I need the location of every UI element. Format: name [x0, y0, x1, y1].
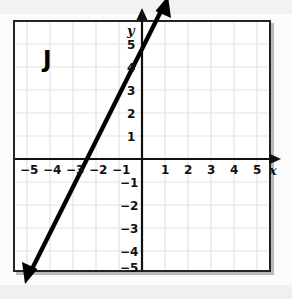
xtick-label--1: −1	[112, 164, 130, 176]
ytick-label--3: −3	[120, 223, 138, 235]
x-axis-label: x	[269, 164, 277, 177]
figure-label-J: J	[43, 48, 52, 71]
xtick-label-4: 4	[230, 164, 238, 176]
ytick-label--4: −4	[120, 246, 138, 258]
ytick-label-2: 2	[127, 108, 135, 120]
xtick-label-2: 2	[184, 164, 192, 176]
xtick-label--4: −4	[43, 164, 61, 176]
xtick-label--3: −3	[66, 164, 84, 176]
graph-figure: J −5 −4 −3 −2 −1 1 2 3 4 5 x 5 4 3 2 1 −…	[0, 0, 292, 299]
xtick-label-1: 1	[161, 164, 169, 176]
ytick-label-4: 4	[127, 62, 135, 74]
y-axis-label: y	[127, 24, 135, 37]
page-band-bottom	[0, 285, 292, 299]
ytick-label--1: −1	[120, 177, 138, 189]
xtick-label--2: −2	[89, 164, 107, 176]
coordinate-plane-svg	[15, 22, 269, 270]
ytick-label-1: 1	[127, 131, 135, 143]
ytick-label--2: −2	[120, 200, 138, 212]
plot-frame: J −5 −4 −3 −2 −1 1 2 3 4 5 x 5 4 3 2 1 −…	[13, 20, 271, 272]
xtick-label-5: 5	[253, 164, 261, 176]
ytick-label-5: 5	[127, 39, 135, 51]
ytick-label-3: 3	[127, 85, 135, 97]
ytick-label--5: −5	[120, 262, 138, 274]
xtick-label--5: −5	[20, 164, 38, 176]
page-band-top	[0, 0, 292, 14]
plot-area: J −5 −4 −3 −2 −1 1 2 3 4 5 x 5 4 3 2 1 −…	[15, 22, 269, 270]
xtick-label-3: 3	[207, 164, 215, 176]
